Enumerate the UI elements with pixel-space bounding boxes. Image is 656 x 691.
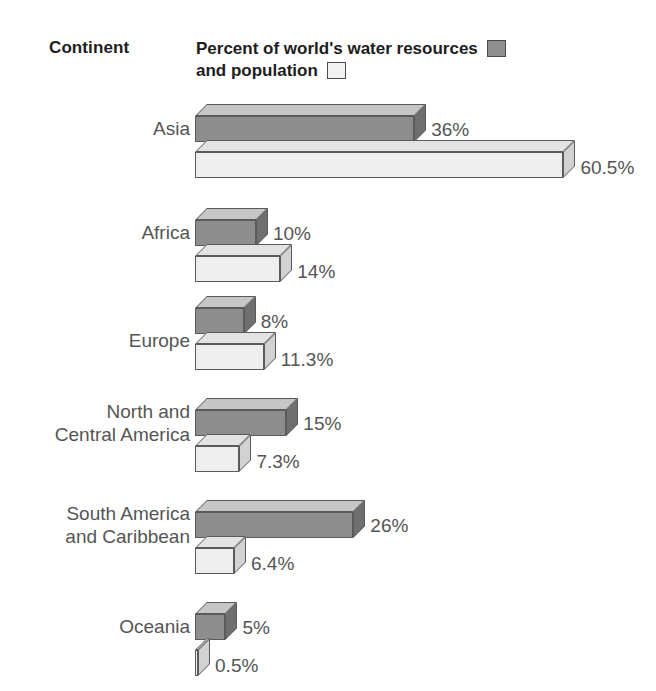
bar-front-face xyxy=(195,650,198,676)
bar-population xyxy=(195,332,276,370)
bar-water-resources xyxy=(195,104,426,142)
bar-3d-body xyxy=(195,220,256,246)
bar-top-face xyxy=(195,398,298,410)
bar-front-face xyxy=(195,308,244,334)
bar-3d-body xyxy=(195,410,286,436)
value-label-water-resources: 26% xyxy=(370,516,408,535)
header-metric-text-2: and population xyxy=(196,61,318,80)
value-label-water-resources: 36% xyxy=(431,120,469,139)
bar-top-face xyxy=(195,500,365,512)
header-metric-line-1: Percent of world's water resources xyxy=(196,38,616,60)
bar-front-face xyxy=(195,116,414,142)
category-label: North and Central America xyxy=(30,400,190,446)
value-label-population: 11.3% xyxy=(281,350,333,369)
bar-water-resources xyxy=(195,602,237,640)
bar-3d-body xyxy=(195,446,239,472)
bar-top-face xyxy=(195,208,268,220)
bar-population xyxy=(195,244,292,282)
bar-population xyxy=(195,638,210,676)
header-metric-title: Percent of world's water resources and p… xyxy=(196,38,616,82)
bar-front-face xyxy=(195,220,256,246)
bar-front-face xyxy=(195,256,280,282)
bar-top-face xyxy=(195,140,575,152)
value-label-population: 6.4% xyxy=(251,554,294,573)
bar-front-face xyxy=(195,446,239,472)
bar-top-face xyxy=(195,104,426,116)
bar-front-face xyxy=(195,512,353,538)
value-label-water-resources: 15% xyxy=(303,414,341,433)
bar-3d-body xyxy=(195,614,225,640)
bar-water-resources xyxy=(195,208,268,246)
value-label-population: 60.5% xyxy=(580,158,634,177)
bar-3d-body xyxy=(195,344,264,370)
header-metric-line-2: and population xyxy=(196,60,616,82)
bar-3d-body xyxy=(195,308,244,334)
bar-front-face xyxy=(195,614,225,640)
value-label-water-resources: 8% xyxy=(261,312,288,331)
bar-3d-body xyxy=(195,116,414,142)
bar-water-resources xyxy=(195,398,298,436)
bar-front-face xyxy=(195,410,286,436)
bar-top-face xyxy=(195,244,292,256)
value-label-water-resources: 10% xyxy=(273,224,311,243)
value-label-population: 7.3% xyxy=(256,452,299,471)
bar-population xyxy=(195,434,251,472)
bar-population xyxy=(195,536,246,574)
water-resources-population-chart: Continent Percent of world's water resou… xyxy=(0,0,656,691)
value-label-population: 14% xyxy=(297,262,335,281)
bar-front-face xyxy=(195,548,234,574)
bar-water-resources xyxy=(195,296,256,334)
category-label: Europe xyxy=(30,329,190,352)
bar-water-resources xyxy=(195,500,365,538)
bar-front-face xyxy=(195,152,563,178)
bar-population xyxy=(195,140,575,178)
category-label: Asia xyxy=(30,117,190,140)
bar-3d-body xyxy=(195,548,234,574)
category-label: Africa xyxy=(30,221,190,244)
bar-3d-body xyxy=(195,152,563,178)
header-metric-text-1: Percent of world's water resources xyxy=(196,39,478,58)
category-label: South America and Caribbean xyxy=(30,502,190,548)
header-continent-title: Continent xyxy=(49,38,129,58)
bar-front-face xyxy=(195,344,264,370)
bar-top-face xyxy=(195,332,276,344)
legend-swatch-water-resources xyxy=(487,40,506,57)
legend-swatch-population xyxy=(327,62,346,79)
value-label-water-resources: 5% xyxy=(242,618,269,637)
value-label-population: 0.5% xyxy=(215,656,258,675)
category-label: Oceania xyxy=(30,615,190,638)
bar-3d-body xyxy=(195,650,198,676)
bar-3d-body xyxy=(195,512,353,538)
bar-3d-body xyxy=(195,256,280,282)
